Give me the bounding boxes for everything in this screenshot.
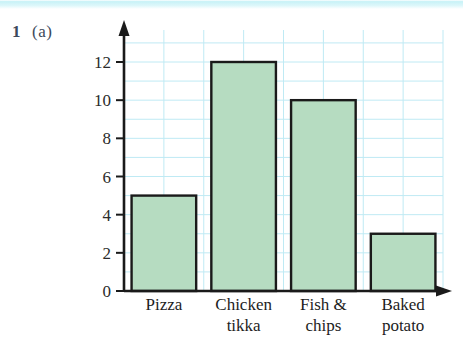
- x-category-label: Fish &: [300, 295, 347, 314]
- x-category-label: Baked: [381, 295, 425, 314]
- bar-chicken-tikka: [211, 62, 276, 291]
- y-tick-label: 8: [103, 129, 112, 148]
- x-category-label: tikka: [227, 316, 261, 335]
- y-axis-arrow-icon: [119, 20, 130, 36]
- bar-chart-figure: 024681012 PizzaChickentikkaFish &chipsBa…: [0, 0, 463, 341]
- x-axis-arrow-icon: [436, 286, 452, 297]
- x-category-label: Chicken: [215, 295, 272, 314]
- y-tick-label: 2: [103, 244, 112, 263]
- bar-baked-potato: [371, 234, 436, 291]
- y-tick-label: 6: [103, 168, 112, 187]
- x-category-label: chips: [305, 316, 341, 335]
- x-category-label: potato: [382, 316, 425, 335]
- y-axis-tick-labels: 024681012: [94, 53, 112, 301]
- y-tick-label: 10: [94, 91, 111, 110]
- y-tick-label: 4: [103, 206, 112, 225]
- worksheet-page: 1(a) 024681012 PizzaChickentikkaFish &ch…: [0, 0, 463, 341]
- bar-chart-svg: 024681012 PizzaChickentikkaFish &chipsBa…: [0, 0, 463, 341]
- y-tick-label: 0: [103, 282, 112, 301]
- x-category-label: Pizza: [145, 295, 182, 314]
- bar-fish-chips: [291, 100, 356, 291]
- bar-pizza: [132, 196, 197, 291]
- x-axis-category-labels: PizzaChickentikkaFish &chipsBakedpotato: [145, 295, 425, 335]
- y-tick-label: 12: [94, 53, 111, 72]
